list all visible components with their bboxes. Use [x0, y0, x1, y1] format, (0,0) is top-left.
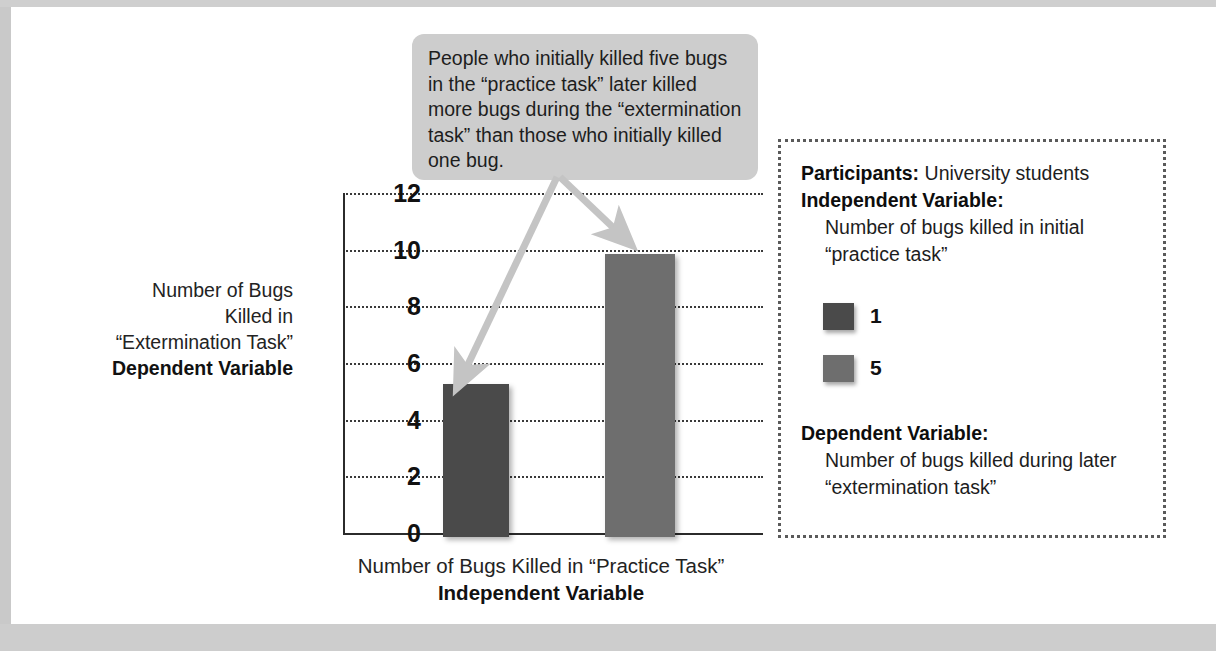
x-axis-title-bold: Independent Variable	[438, 581, 644, 604]
legend-swatch-icon	[823, 303, 854, 330]
y-axis-line	[343, 193, 345, 534]
bar-5	[605, 254, 675, 537]
x-axis-title-plain: Number of Bugs Killed in “Practice Task”	[358, 554, 725, 577]
scan-edge-bottom	[0, 624, 1216, 651]
independent-variable-value: Number of bugs killed in initial “practi…	[801, 214, 1149, 268]
figure-canvas: People who initially killed five bugs in…	[11, 7, 1216, 624]
legend-swatch-icon	[823, 355, 854, 382]
y-axis-title: Number of Bugs Killed in “Extermination …	[111, 277, 293, 381]
legend: 15	[801, 290, 1149, 394]
participants-line: Participants: University students	[801, 160, 1149, 187]
callout-text: People who initially killed five bugs in…	[428, 46, 742, 174]
legend-item-1: 1	[823, 290, 1149, 342]
dependent-variable-value: Number of bugs killed during later “exte…	[801, 447, 1149, 501]
plot-area: 024681012	[343, 187, 763, 537]
scan-edge-top	[0, 0, 1216, 7]
legend-item-5: 5	[823, 342, 1149, 394]
y-axis-title-bold: Dependent Variable	[112, 357, 293, 379]
y-tick-label: 12	[351, 179, 421, 208]
y-tick-label: 8	[351, 292, 421, 321]
y-tick-label: 2	[351, 462, 421, 491]
study-info-panel: Participants: University students Indepe…	[778, 139, 1166, 538]
legend-label: 5	[870, 356, 882, 380]
dependent-variable-label: Dependent Variable:	[801, 422, 988, 444]
x-axis-title: Number of Bugs Killed in “Practice Task”…	[301, 552, 781, 606]
y-axis-title-plain: Number of Bugs Killed in “Extermination …	[116, 279, 293, 353]
independent-variable-label: Independent Variable:	[801, 189, 1004, 211]
y-tick-label: 4	[351, 405, 421, 434]
independent-variable-line: Independent Variable:	[801, 187, 1149, 214]
scan-edge-left	[0, 0, 11, 651]
callout-bubble: People who initially killed five bugs in…	[412, 34, 758, 180]
legend-label: 1	[870, 304, 882, 328]
participants-value: University students	[925, 162, 1090, 184]
page-background: People who initially killed five bugs in…	[0, 0, 1216, 651]
participants-label: Participants:	[801, 162, 919, 184]
y-tick-label: 0	[351, 519, 421, 548]
bar-1	[443, 384, 509, 537]
dependent-variable-block: Dependent Variable: Number of bugs kille…	[801, 420, 1149, 501]
y-tick-label: 6	[351, 349, 421, 378]
y-tick-label: 10	[351, 235, 421, 264]
dependent-variable-line: Dependent Variable:	[801, 420, 1149, 447]
